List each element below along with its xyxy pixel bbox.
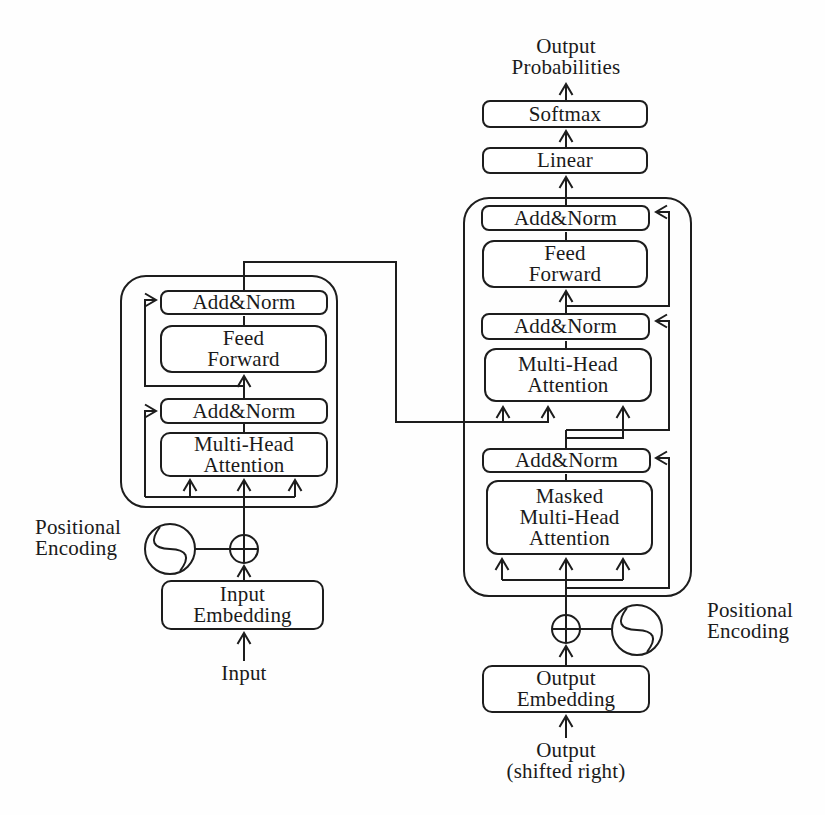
decoder-query-arrow (566, 407, 623, 438)
decoder-add-norm-middle-box: Add&Norm (481, 313, 650, 340)
decoder-add-norm-top-box: Add&Norm (481, 205, 650, 231)
softmax-box: Softmax (482, 100, 648, 128)
transformer-architecture-diagram: Output Probabilities Softmax Linear Add&… (0, 0, 825, 815)
positional-encoding-right-label: Positional Encoding (707, 600, 793, 642)
decoder-multi-head-attention-box: Multi-Head Attention (484, 348, 652, 402)
positional-encoding-left-label: Positional Encoding (35, 517, 121, 559)
input-embedding-box: Input Embedding (161, 580, 324, 630)
connector-layer (0, 0, 825, 815)
encoder-add-norm-top-box: Add&Norm (160, 290, 328, 315)
plus-circle-left-icon (230, 535, 258, 563)
plus-circle-right-icon (552, 615, 580, 643)
decoder-add-norm-bottom-box: Add&Norm (482, 448, 651, 473)
masked-multi-head-attention-box: Masked Multi-Head Attention (486, 480, 653, 555)
positional-encoding-right-icon (612, 605, 662, 655)
output-shifted-right-label: Output (shifted right) (486, 740, 646, 782)
linear-box: Linear (482, 147, 648, 174)
encoder-feed-forward-box: Feed Forward (160, 325, 327, 373)
output-probabilities-label: Output Probabilities (486, 36, 646, 78)
encoder-residual-bottom (145, 411, 156, 497)
output-embedding-box: Output Embedding (482, 665, 650, 713)
input-label: Input (204, 663, 284, 684)
positional-encoding-left-icon (145, 524, 195, 574)
decoder-feed-forward-box: Feed Forward (482, 240, 648, 288)
encoder-multi-head-attention-box: Multi-Head Attention (160, 432, 328, 477)
encoder-add-norm-bottom-box: Add&Norm (160, 398, 328, 424)
